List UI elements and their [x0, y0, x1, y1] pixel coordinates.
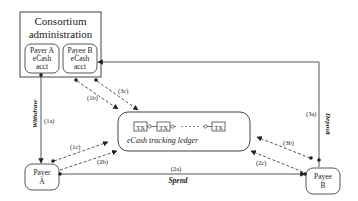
payer-a-ecash-account: Payer A eCash acct [25, 44, 59, 73]
svg-text:(3b): (3b) [283, 139, 294, 147]
svg-text:(1a): (1a) [44, 117, 54, 125]
svg-text:acct: acct [36, 62, 49, 71]
svg-text:Withdraw: Withdraw [31, 100, 39, 128]
svg-text:(3c): (3c) [118, 87, 128, 95]
withdraw-edge: Withdraw (1a) [31, 73, 54, 163]
payee-b-node: Payee B [306, 168, 340, 194]
svg-text:(1c): (1c) [70, 143, 80, 151]
svg-text:TX: TX [214, 124, 223, 131]
payer-a-node: Payer A [25, 164, 59, 190]
svg-text:TX: TX [136, 124, 145, 131]
payee-b-ecash-account: Payee B eCash acct [63, 44, 97, 73]
svg-text:Spend: Spend [168, 176, 187, 185]
consortium-title-line1: Consortium [35, 15, 87, 27]
diagram-canvas: Consortium administration Payer A eCash … [0, 0, 358, 201]
ecash-tracking-ledger: TX TX TX eCash tracking ledger [118, 112, 250, 151]
svg-text:(3a): (3a) [306, 110, 316, 118]
svg-text:Payer: Payer [33, 168, 51, 177]
spend-edge: (2a) Spend [58, 165, 307, 185]
svg-text:TX: TX [159, 124, 168, 131]
svg-text:Payee: Payee [314, 172, 333, 181]
svg-text:(1b): (1b) [87, 94, 98, 102]
flow-2b [60, 151, 117, 170]
svg-text:A: A [39, 177, 45, 186]
svg-text:(2a): (2a) [171, 165, 181, 173]
flow-3c [97, 81, 138, 110]
svg-text:acct: acct [74, 62, 87, 71]
svg-text:Deposit: Deposit [324, 112, 332, 136]
svg-text:(2b): (2b) [97, 158, 108, 166]
consortium-title-line2: administration [29, 28, 93, 40]
svg-text:(2c): (2c) [256, 159, 266, 167]
svg-text:B: B [320, 181, 325, 190]
ledger-label: eCash tracking ledger [127, 136, 199, 145]
